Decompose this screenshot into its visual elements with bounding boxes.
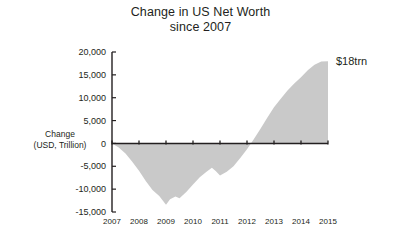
x-tick-label: 2010: [184, 217, 202, 226]
x-tick-label: 2009: [157, 217, 175, 226]
chart-container: Change in US Net Worth since 2007 20,000…: [0, 0, 401, 248]
y-tick-label: -5,000: [80, 161, 106, 171]
y-axis-title: Change(USD, Trillion): [34, 129, 87, 150]
x-tick-label: 2015: [319, 217, 337, 226]
y-tick-label: 0: [101, 139, 106, 149]
x-axis: 200720082009201020112012201320142015: [103, 217, 337, 226]
y-axis-title-line-1: Change: [45, 129, 75, 139]
y-tick-label: -10,000: [75, 184, 106, 194]
y-axis: 20,00015,00010,0005,0000-5,000-10,000-15…: [75, 47, 116, 217]
area-fill: [112, 61, 328, 205]
x-tick-label: 2012: [238, 217, 256, 226]
y-tick-label: 10,000: [78, 93, 106, 103]
x-tick-label: 2013: [265, 217, 283, 226]
chart-annotations: $18trn: [336, 55, 367, 67]
x-tick-label: 2007: [103, 217, 121, 226]
x-tick-label: 2014: [292, 217, 310, 226]
y-axis-title-line-2: (USD, Trillion): [34, 140, 87, 150]
y-tick-label: -15,000: [75, 207, 106, 217]
x-tick-label: 2011: [211, 217, 229, 226]
value-annotation: $18trn: [336, 55, 367, 67]
area-series: [112, 61, 328, 205]
y-tick-label: 20,000: [78, 47, 106, 57]
x-tick-label: 2008: [130, 217, 148, 226]
y-tick-label: 5,000: [83, 116, 106, 126]
y-tick-label: 15,000: [78, 70, 106, 80]
chart-plot: 20,00015,00010,0005,0000-5,000-10,000-15…: [0, 0, 401, 248]
